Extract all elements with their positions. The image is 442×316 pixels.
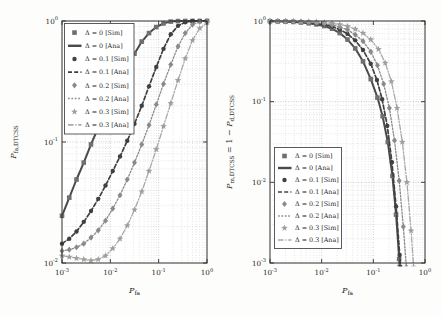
circle-marker [67,237,71,241]
two-panel-log-log-figure: Δ = 0 [Sim]Δ = 0 [Ana]Δ = 0.1 [Sim]Δ = 0… [0,0,442,316]
circle-marker [369,62,373,66]
circle-marker [361,48,365,52]
square-marker [368,77,373,82]
square-marker [345,37,350,42]
x-tick-label: 10-2 [315,267,329,277]
circle-marker [282,178,286,182]
square-marker [81,160,86,165]
y-tick-label: 10-1 [44,136,58,146]
legend-label: Δ = 0.1 [Ana] [295,188,339,196]
square-marker [147,31,152,36]
legend-label: Δ = 0 [Sim] [85,29,123,37]
legend-label: Δ = 0.1 [Ana] [85,68,129,76]
circle-marker [111,169,115,173]
x-tick-label: 100 [201,267,213,277]
circle-marker [169,32,173,36]
legend-label: Δ = 0 [Ana] [85,42,123,50]
legend-label: Δ = 0.1 [Sim] [85,55,129,63]
circle-marker [140,104,144,108]
y-tick-label: 100 [254,15,266,25]
square-marker [139,39,144,44]
circle-marker [96,197,100,201]
y-tick-label: 10-3 [252,257,266,267]
circle-marker [147,84,151,88]
diamond-marker [404,264,409,270]
legend-label: Δ = 0.2 [Sim] [295,200,339,208]
circle-marker [89,209,93,213]
x-tick-label: 10-3 [55,267,69,277]
y-axis-label: Pfa,DTCSS [9,125,19,160]
square-marker [72,30,77,35]
x-axis-label: Pfa [128,285,141,296]
chart-canvas: Δ = 0 [Sim]Δ = 0 [Ana]Δ = 0.1 [Sim]Δ = 0… [0,0,442,316]
y-tick-label: 10-2 [252,177,266,187]
x-tick-label: 10-2 [103,267,117,277]
legend-label: Δ = 0.2 [Ana] [295,212,339,220]
square-marker [282,154,287,159]
legend-label: Δ = 0.1 [Sim] [295,176,339,184]
x-tick-label: 10-1 [366,267,380,277]
legend: Δ = 0 [Sim]Δ = 0 [Ana]Δ = 0.1 [Sim]Δ = 0… [65,24,135,135]
missed-detection-plot: Δ = 0 [Sim]Δ = 0 [Ana]Δ = 0.1 [Sim]Δ = 0… [225,15,432,296]
circle-marker [375,78,379,82]
circle-marker [176,24,180,28]
y-tick-label: 100 [46,15,58,25]
circle-marker [74,229,78,233]
circle-marker [398,265,402,269]
legend-label: Δ = 0.3 [Ana] [295,236,339,244]
square-marker [89,142,94,147]
y-tick-label: 10-2 [44,257,58,267]
circle-marker [385,124,389,128]
legend-label: Δ = 0.3 [Ana] [85,121,129,129]
square-marker [361,59,366,64]
legend-label: Δ = 0.2 [Ana] [85,95,129,103]
legend-label: Δ = 0 [Sim] [295,152,333,160]
legend-label: Δ = 0 [Ana] [295,164,333,172]
circle-marker [390,160,394,164]
x-tick-label: 10-1 [152,267,166,277]
circle-marker [72,57,76,61]
legend: Δ = 0 [Sim]Δ = 0 [Ana]Δ = 0.1 [Sim]Δ = 0… [275,148,342,249]
circle-marker [397,253,401,257]
star-marker [410,264,417,270]
square-marker [168,19,173,24]
square-marker [74,177,79,182]
circle-marker [380,97,384,101]
x-axis-label: Pfa [341,285,354,296]
square-marker [375,95,380,100]
x-tick-label: 100 [419,267,431,277]
legend-box [65,24,135,135]
circle-marker [394,204,398,208]
circle-marker [103,183,107,187]
false-alarm-plot: Δ = 0 [Sim]Δ = 0 [Ana]Δ = 0.1 [Sim]Δ = 0… [9,15,213,296]
x-tick-label: 10-3 [263,267,277,277]
square-marker [67,195,72,200]
legend-label: Δ = 0.3 [Sim] [295,224,339,232]
circle-marker [118,154,122,158]
circle-marker [125,139,129,143]
circle-marker [154,65,158,69]
legend-label: Δ = 0.2 [Sim] [85,82,129,90]
square-marker [154,25,159,30]
legend-label: Δ = 0.3 [Sim] [85,108,129,116]
circle-marker [161,47,165,51]
legend-box [275,148,342,249]
y-tick-label: 10-1 [252,96,266,106]
square-marker [353,46,358,51]
circle-marker [353,38,357,42]
circle-marker [82,220,86,224]
y-axis-label: Pm,DTCSS = 1 − Pd,DTCSS [225,95,235,190]
square-marker [161,21,166,26]
